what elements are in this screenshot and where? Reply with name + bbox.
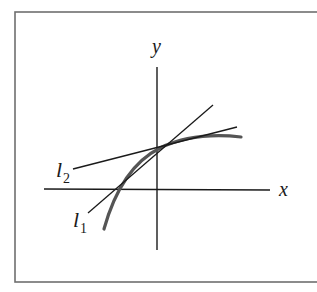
line-l1-subscript: 1	[80, 221, 87, 236]
tangent-line-l1	[88, 105, 213, 213]
secant-line-l2	[73, 127, 237, 169]
y-axis-label: y	[150, 35, 161, 58]
function-curve	[104, 136, 241, 229]
line-l2-label: l	[56, 157, 62, 182]
tangent-lines-diagram: x y l 1 l 2	[0, 0, 317, 292]
line-l1-label: l	[73, 207, 79, 232]
line-l2-subscript: 2	[63, 171, 70, 186]
x-axis-label: x	[278, 178, 288, 200]
diagram-canvas: x y l 1 l 2	[0, 0, 317, 292]
